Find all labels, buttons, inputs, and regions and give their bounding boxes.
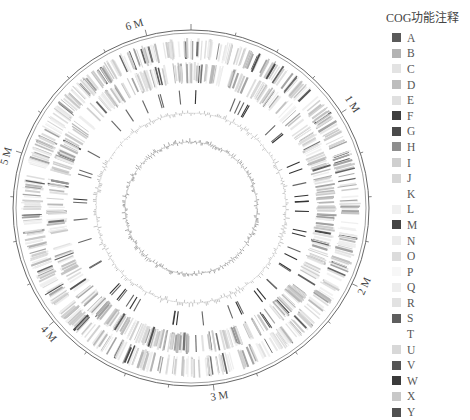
cog-reverse-strand-track	[46, 62, 337, 354]
legend-swatch	[392, 330, 401, 339]
legend-title: COG功能注释	[386, 8, 470, 26]
legend-label: J	[407, 172, 411, 184]
legend-item-l: L	[392, 202, 470, 218]
legend-swatch	[392, 127, 401, 136]
legend-label: D	[407, 79, 415, 91]
scale-label: 2 M	[355, 275, 373, 297]
legend-label: M	[407, 219, 417, 231]
cog-forward-strand-track	[21, 38, 361, 378]
cog-legend: COG功能注释 ABCDEFGHIJKLMNOPQRSTUVWXY	[392, 8, 470, 420]
legend-item-t: T	[392, 326, 470, 342]
legend-label: W	[407, 375, 418, 387]
legend-label: Y	[407, 406, 415, 418]
legend-swatch	[392, 111, 401, 120]
legend-swatch	[392, 174, 401, 183]
legend-swatch	[392, 64, 401, 73]
legend-swatch	[392, 376, 401, 385]
legend-item-c: C	[392, 61, 470, 77]
legend-swatch	[392, 220, 401, 229]
legend-swatch	[392, 142, 401, 151]
legend-swatch	[392, 96, 401, 105]
legend-item-k: K	[392, 186, 470, 202]
legend-label: X	[407, 390, 415, 402]
ncrna-track	[73, 90, 309, 325]
legend-swatch	[392, 80, 401, 89]
legend-label: N	[407, 235, 415, 247]
gc-content-track	[93, 111, 290, 308]
legend-label: F	[407, 110, 413, 122]
legend-label: O	[407, 250, 415, 262]
legend-label: E	[407, 94, 414, 106]
legend-item-h: H	[392, 139, 470, 155]
legend-item-o: O	[392, 248, 470, 264]
legend-label: I	[407, 157, 411, 169]
scale-label: 3 M	[209, 388, 229, 403]
legend-label: S	[407, 312, 413, 324]
legend-swatch	[392, 158, 401, 167]
circular-genome-map: 6 M1 M2 M3 M4 M5 M	[0, 0, 380, 403]
legend-item-r: R	[392, 295, 470, 311]
legend-label: K	[407, 188, 415, 200]
legend-swatch	[392, 283, 401, 292]
legend-item-x: X	[392, 389, 470, 405]
legend-label: R	[407, 297, 415, 309]
gc-skew-track	[122, 138, 260, 276]
legend-item-d: D	[392, 77, 470, 93]
legend-swatch	[392, 345, 401, 354]
legend-item-v: V	[392, 357, 470, 373]
legend-item-g: G	[392, 124, 470, 140]
legend-item-y: Y	[392, 404, 470, 420]
legend-swatch	[392, 252, 401, 261]
legend-label: V	[407, 359, 415, 371]
legend-label: C	[407, 63, 415, 75]
legend-item-w: W	[392, 373, 470, 389]
legend-item-q: Q	[392, 280, 470, 296]
legend-label: U	[407, 344, 415, 356]
legend-item-b: B	[392, 46, 470, 62]
legend-item-f: F	[392, 108, 470, 124]
legend-swatch	[392, 33, 401, 42]
legend-label: A	[407, 32, 415, 44]
legend-swatch	[392, 189, 401, 198]
legend-label: P	[407, 266, 413, 278]
legend-item-u: U	[392, 342, 470, 358]
legend-label: L	[407, 203, 414, 215]
legend-swatch	[392, 205, 401, 214]
legend-swatch	[392, 361, 401, 370]
legend-label: B	[407, 47, 415, 59]
legend-swatch	[392, 298, 401, 307]
scale-label: 6 M	[124, 16, 145, 33]
legend-items: ABCDEFGHIJKLMNOPQRSTUVWXY	[392, 30, 470, 420]
legend-item-a: A	[392, 30, 470, 46]
legend-label: Q	[407, 281, 415, 293]
legend-swatch	[392, 236, 401, 245]
legend-label: T	[407, 328, 414, 340]
legend-swatch	[392, 314, 401, 323]
legend-item-i: I	[392, 155, 470, 171]
legend-item-s: S	[392, 311, 470, 327]
legend-item-p: P	[392, 264, 470, 280]
legend-swatch	[392, 267, 401, 276]
legend-swatch	[392, 408, 401, 417]
legend-item-e: E	[392, 92, 470, 108]
legend-item-j: J	[392, 170, 470, 186]
legend-item-m: M	[392, 217, 470, 233]
legend-label: H	[407, 141, 415, 153]
legend-swatch	[392, 49, 401, 58]
scale-label: 1 M	[343, 93, 363, 115]
legend-item-n: N	[392, 233, 470, 249]
legend-swatch	[392, 392, 401, 401]
legend-label: G	[407, 125, 415, 137]
scale-label: 4 M	[38, 323, 59, 345]
scale-label: 5 M	[0, 145, 14, 166]
